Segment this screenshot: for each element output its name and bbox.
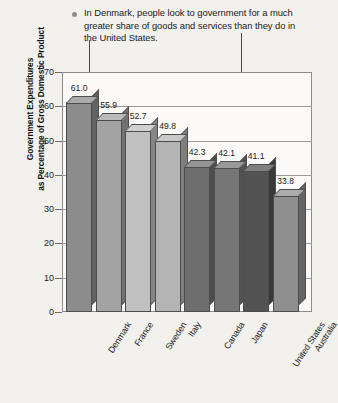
bar: 42.3: [184, 167, 210, 312]
bar-value-label: 42.3: [189, 147, 206, 157]
y-axis-tick-mark: [55, 312, 62, 313]
y-axis-tick-label: 60: [34, 101, 54, 111]
bar-value-label: 42.1: [218, 148, 235, 158]
bar-front-face: [155, 141, 181, 312]
y-axis-tick-mark: [55, 278, 62, 279]
bar-front-face: [66, 103, 92, 312]
y-axis-tick-label: 10: [34, 273, 54, 283]
y-axis-tick-mark: [55, 243, 62, 244]
y-axis-tick-label: 40: [34, 170, 54, 180]
bar-value-label: 33.8: [277, 176, 294, 186]
x-axis-category-label: Italy: [186, 320, 203, 339]
y-axis-tick-mark: [55, 72, 62, 73]
caption-text: In Denmark, people look to government fo…: [84, 7, 310, 45]
y-axis-tick-label: 20: [34, 238, 54, 248]
bar-front-face: [184, 167, 210, 312]
bar: 33.8: [273, 196, 299, 312]
bar: 55.9: [96, 120, 122, 312]
bar-value-label: 52.7: [130, 111, 147, 121]
bar: 61.0: [66, 103, 92, 312]
bar: 42.1: [214, 168, 240, 312]
bar-front-face: [96, 120, 122, 312]
y-axis-tick-mark: [55, 209, 62, 210]
chart-caption: In Denmark, people look to government fo…: [72, 7, 310, 45]
y-axis-tick-mark: [55, 106, 62, 107]
bar: 52.7: [125, 131, 151, 312]
bar-front-face: [243, 171, 269, 312]
bar-value-label: 55.9: [100, 100, 117, 110]
x-axis-category-label: Denmark: [106, 320, 133, 355]
x-axis-category-label: France: [132, 320, 155, 348]
bar-side-face: [299, 182, 306, 305]
bar: 49.8: [155, 141, 181, 312]
y-axis-tick-labels: 010203040506070: [30, 72, 54, 312]
bar-value-label: 41.1: [248, 151, 265, 161]
bullet-dot-icon: [72, 12, 77, 17]
bar: 41.1: [243, 171, 269, 312]
y-axis-tick-label: 50: [34, 136, 54, 146]
x-axis-category-labels: DenmarkFranceSwedenItalyCanadaJapanUnite…: [62, 312, 312, 402]
y-axis-tick-mark: [55, 141, 62, 142]
bar-front-face: [214, 168, 240, 312]
y-axis-tick-mark: [55, 175, 62, 176]
bar-front-face: [125, 131, 151, 312]
y-axis-tick-label: 70: [34, 67, 54, 77]
y-axis-tick-label: 30: [34, 204, 54, 214]
bar-value-label: 49.8: [159, 121, 176, 131]
x-axis-category-label: Canada: [222, 320, 247, 351]
x-axis-category-label: Sweden: [163, 320, 188, 352]
y-axis-tick-label: 0: [34, 307, 54, 317]
bar-value-label: 61.0: [71, 83, 88, 93]
y-axis-tick-marks: [55, 72, 62, 312]
plot-area: 61.055.952.749.842.342.141.133.8: [62, 72, 312, 312]
x-axis-category-label: Japan: [248, 320, 269, 345]
bar-front-face: [273, 196, 299, 312]
